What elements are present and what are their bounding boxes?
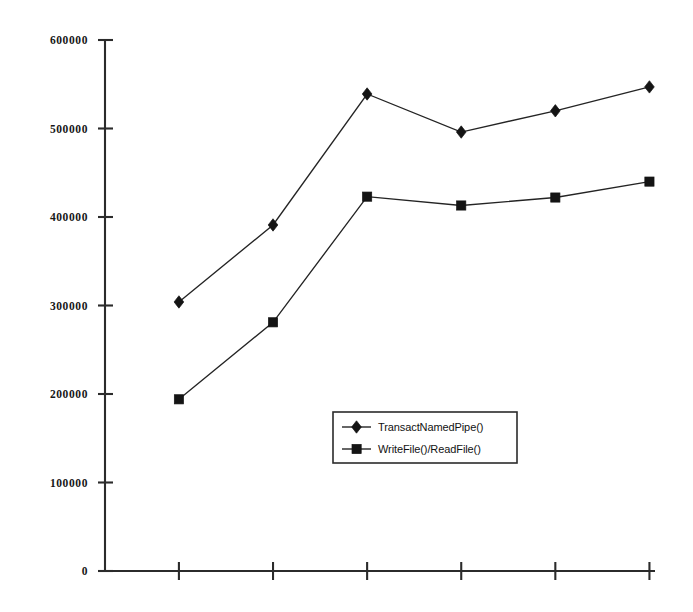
y-tick-label: 0 xyxy=(82,565,88,577)
series-1 xyxy=(174,81,654,308)
legend-label: WriteFile()/ReadFile() xyxy=(378,443,481,455)
data-point-square xyxy=(363,192,372,201)
chart-svg: 6000005000004000003000002000001000000 Tr… xyxy=(0,0,693,612)
y-tick-label: 500000 xyxy=(50,123,88,135)
y-tick-label: 200000 xyxy=(50,388,88,400)
data-point-square xyxy=(551,193,560,202)
line-chart: 6000005000004000003000002000001000000 Tr… xyxy=(0,0,693,612)
data-point-square xyxy=(174,395,183,404)
y-axis-tick-labels: 6000005000004000003000002000001000000 xyxy=(50,34,88,577)
legend-label: TransactNamedPipe() xyxy=(378,421,483,433)
data-point-diamond xyxy=(550,105,560,117)
series-line xyxy=(179,87,650,302)
y-tick-label: 300000 xyxy=(50,300,88,312)
series-layer xyxy=(174,81,654,404)
y-tick-label: 100000 xyxy=(50,477,88,489)
data-point-square xyxy=(268,318,277,327)
legend-box xyxy=(333,412,517,463)
data-point-square xyxy=(645,177,654,186)
data-point-square xyxy=(457,201,466,210)
data-point-diamond xyxy=(645,81,655,93)
y-tick-label: 600000 xyxy=(50,34,88,46)
legend-marker-square xyxy=(352,444,361,453)
data-point-diamond xyxy=(456,126,466,138)
chart-legend: TransactNamedPipe()WriteFile()/ReadFile(… xyxy=(333,412,517,463)
y-tick-label: 400000 xyxy=(50,211,88,223)
series-2 xyxy=(174,177,654,404)
data-point-diamond xyxy=(174,296,184,308)
series-line xyxy=(179,182,650,400)
